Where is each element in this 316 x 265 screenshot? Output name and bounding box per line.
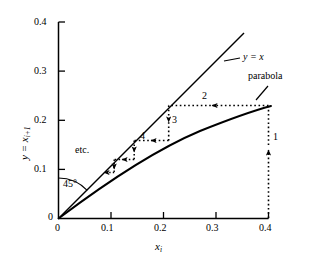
y-tick-label-0.1: 0.1 — [34, 163, 47, 174]
x-axis-title-subscript: i — [160, 245, 162, 254]
x-tick-label-0.3: 0.3 — [206, 222, 219, 233]
parabola-label-leader — [256, 86, 268, 100]
parabola-label: parabola — [248, 70, 282, 81]
y-tick-label-0.4: 0.4 — [34, 16, 47, 27]
x-axis-ticks — [111, 212, 269, 219]
x-tick-label-0.2: 0.2 — [154, 222, 167, 233]
x-tick-label-0.4: 0.4 — [259, 222, 272, 233]
parabola-curve — [59, 106, 272, 219]
y-tick-label-0.2: 0.2 — [34, 114, 47, 125]
axis-lines — [59, 22, 269, 219]
identity-line-label: y = x — [243, 51, 264, 62]
identity-line — [59, 33, 245, 219]
y-axis-ticks — [59, 22, 66, 169]
step-1-label: 1 — [273, 131, 278, 142]
x-tick-label-0: 0 — [55, 222, 60, 233]
x-axis-title: xi — [155, 240, 162, 254]
y-tick-label-0.3: 0.3 — [34, 65, 47, 76]
x-tick-label-0.1: 0.1 — [101, 222, 114, 233]
y-axis-title-main: y = x — [18, 137, 30, 160]
step-3-label: 3 — [172, 114, 177, 125]
y-tick-label-0: 0 — [48, 211, 53, 222]
step-4-label: 4 — [140, 130, 145, 141]
identity-label-leader — [224, 58, 240, 61]
y-axis-title-subscript: i+1 — [23, 126, 32, 137]
step-2-label: 2 — [202, 90, 207, 101]
y-axis-title: y = xi+1 — [18, 126, 32, 160]
angle-45-label: 45° — [63, 178, 77, 189]
etc-label: etc. — [75, 144, 89, 155]
chart-figure: 0.4 0.3 0.2 0.1 0 0 0.1 0.2 0.3 0.4 xi y… — [0, 0, 316, 265]
